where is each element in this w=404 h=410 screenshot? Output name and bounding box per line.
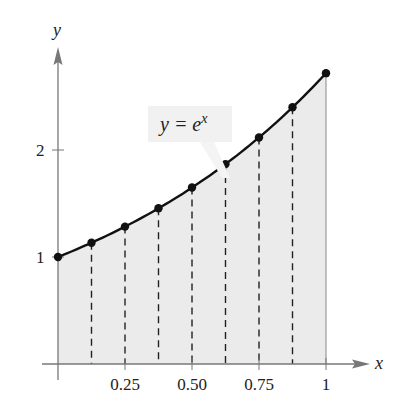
x-tick-label-0.25: 0.25 [110,375,140,394]
data-point [121,222,129,230]
x-axis-label: x [374,353,383,373]
data-point [188,183,196,191]
data-point [322,69,330,77]
x-tick-label-1: 1 [322,375,331,394]
x-tick-label-0.75: 0.75 [244,375,274,394]
chart: y = ex y x 1 2 0.25 0.50 0.75 1 [0,0,404,410]
y-tick-label-2: 2 [36,141,45,160]
data-point [54,253,62,261]
data-point [87,239,95,247]
data-point [288,103,296,111]
y-tick-label-1: 1 [36,248,45,267]
y-axis-label: y [51,20,61,40]
data-point [154,204,162,212]
data-point [255,133,263,141]
x-tick-label-0.50: 0.50 [177,375,207,394]
equation-label: y = ex [158,111,208,136]
